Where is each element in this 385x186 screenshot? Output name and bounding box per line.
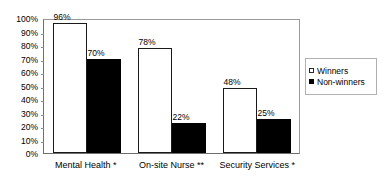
y-tick-mark: [41, 101, 44, 102]
y-tick-label: 80%: [0, 42, 38, 51]
y-tick-label: 10%: [0, 136, 38, 145]
y-tick-label: 50%: [0, 82, 38, 91]
bar-value-label: 96%: [54, 13, 71, 22]
category-label: Mental Health *: [43, 160, 129, 171]
bar-nonwinners[interactable]: [87, 59, 121, 154]
y-tick-label: 30%: [0, 109, 38, 118]
bar-slot: 22%: [172, 20, 206, 153]
y-tick-label: 90%: [0, 28, 38, 37]
legend-label: Non-winners: [317, 77, 365, 87]
bar-group: 48%25%: [214, 20, 299, 153]
bar-nonwinners[interactable]: [257, 119, 291, 153]
bar-value-label: 25%: [258, 109, 275, 118]
y-tick-mark: [41, 88, 44, 89]
hollow-square-icon: [309, 68, 314, 73]
category-label: Security Services *: [214, 160, 300, 171]
bar-group: 78%22%: [129, 20, 214, 153]
category-label: On-site Nurse **: [129, 160, 215, 171]
filled-square-icon: [309, 79, 314, 84]
legend-label: Winners: [317, 66, 348, 76]
y-tick-label: 0%: [0, 150, 38, 159]
y-tick-mark: [41, 61, 44, 62]
y-tick-label: 40%: [0, 96, 38, 105]
plot-area: 96%70%78%22%48%25%: [43, 19, 300, 154]
bar-winners[interactable]: [223, 88, 257, 153]
legend: Winners Non-winners: [305, 58, 377, 95]
y-tick-mark: [41, 142, 44, 143]
bar-slot: 78%: [138, 20, 172, 153]
bar-value-label: 22%: [173, 113, 190, 122]
bar-slot: 70%: [87, 20, 121, 153]
y-tick-label: 100%: [0, 15, 38, 24]
y-tick-label: 20%: [0, 123, 38, 132]
y-axis: 100%90%80%70%60%50%40%30%20%10%0%: [0, 13, 38, 153]
legend-item-non-winners[interactable]: Non-winners: [309, 76, 372, 87]
legend-item-winners[interactable]: Winners: [309, 65, 372, 76]
bar-slot: 48%: [223, 20, 257, 153]
x-axis-labels: Mental Health *On-site Nurse **Security …: [43, 160, 300, 171]
bar-chart: 100%90%80%70%60%50%40%30%20%10%0% 96%70%…: [0, 0, 385, 186]
bar-slot: 25%: [257, 20, 291, 153]
bar-value-label: 70%: [88, 49, 105, 58]
bar-winners[interactable]: [53, 23, 87, 153]
bar-group: 96%70%: [44, 20, 129, 153]
bar-value-label: 48%: [224, 78, 241, 87]
y-tick-mark: [41, 115, 44, 116]
bar-nonwinners[interactable]: [172, 123, 206, 153]
y-tick-label: 70%: [0, 55, 38, 64]
y-tick-mark: [41, 74, 44, 75]
y-tick-mark: [41, 34, 44, 35]
bar-winners[interactable]: [138, 48, 172, 153]
bar-groups: 96%70%78%22%48%25%: [44, 20, 299, 153]
bar-value-label: 78%: [139, 38, 156, 47]
y-tick-mark: [41, 47, 44, 48]
y-tick-label: 60%: [0, 69, 38, 78]
bar-slot: 96%: [53, 20, 87, 153]
y-tick-mark: [41, 128, 44, 129]
